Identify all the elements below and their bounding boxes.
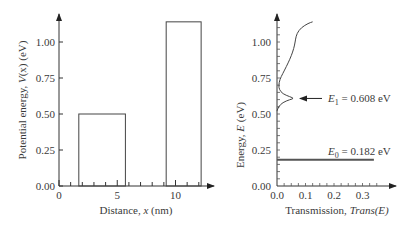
transmission-curve: [277, 22, 313, 111]
x-tick-label: 0.2: [327, 189, 341, 201]
x-tick-label: 0.0: [270, 189, 284, 201]
x-tick-label: 5: [115, 189, 121, 201]
y-tick-label: 0.50: [36, 108, 56, 120]
barrier-bar: [79, 114, 126, 186]
y-tick-label: 1.00: [36, 36, 56, 48]
x-axis-label: Distance, x (nm): [99, 204, 172, 217]
y-axis-label: Potential energy, V(x) (eV): [16, 40, 29, 159]
x-tick-label: 10: [170, 189, 182, 201]
x-tick-label: 0.3: [356, 189, 370, 201]
y-tick-label: 0.25: [36, 144, 56, 156]
y-tick-label: 0.00: [252, 180, 272, 192]
x-tick-label: 0.1: [299, 189, 313, 201]
y-axis-label: Energy, E (eV): [234, 102, 247, 168]
transmission-chart: 0.000.250.500.751.00 0.00.10.20.3 E1 = 0…: [234, 14, 396, 217]
y-tick-label: 0.25: [252, 144, 272, 156]
figure: 0.000.250.500.751.00 0510 Distance, x (n…: [0, 0, 414, 227]
x-axis-label: Transmission, Trans(E): [285, 204, 389, 217]
barrier-bar: [166, 22, 201, 186]
x-tick-label: 0: [56, 189, 62, 201]
y-tick-label: 0.75: [252, 72, 272, 84]
y-tick-label: 0.50: [252, 108, 272, 120]
e1-annotation: E1 = 0.608 eV: [327, 92, 391, 107]
potential-chart: 0.000.250.500.751.00 0510 Distance, x (n…: [16, 14, 214, 217]
e0-annotation: E0 = 0.182 eV: [327, 145, 391, 160]
y-tick-label: 1.00: [252, 36, 272, 48]
y-tick-label: 0.75: [36, 72, 56, 84]
y-tick-label: 0.00: [36, 180, 56, 192]
